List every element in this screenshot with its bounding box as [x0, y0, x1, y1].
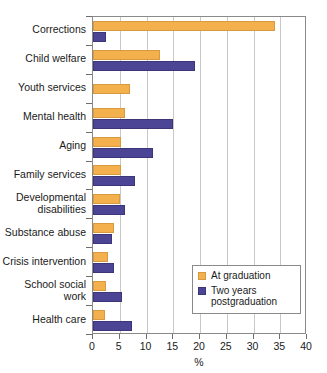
bar	[93, 119, 173, 129]
legend-swatch-two-years	[198, 287, 206, 295]
bar	[93, 165, 121, 175]
x-axis-tick	[226, 334, 227, 339]
x-axis-tick-label: 0	[77, 340, 107, 352]
y-axis-tick	[86, 161, 92, 162]
x-axis-tick	[119, 334, 120, 339]
bar	[93, 310, 105, 320]
y-axis-label: Youth services	[0, 82, 86, 94]
bar	[93, 205, 125, 215]
x-axis-tick	[199, 334, 200, 339]
bar-group	[93, 190, 305, 219]
legend-item: Two years postgraduation	[198, 285, 295, 308]
bar	[93, 148, 153, 158]
y-axis-tick	[86, 218, 92, 219]
bar	[93, 21, 275, 31]
y-axis-label: Health care	[0, 314, 86, 326]
bar	[93, 321, 132, 331]
x-axis-tick-label: 40	[291, 340, 321, 352]
bar-group	[93, 162, 305, 191]
bar	[93, 234, 112, 244]
y-axis-label: Substance abuse	[0, 227, 86, 239]
bar	[93, 84, 130, 94]
x-axis-title: %	[92, 356, 306, 368]
bar	[93, 223, 114, 233]
bar-group	[93, 133, 305, 162]
bar-group	[93, 104, 305, 133]
y-axis-label: Family services	[0, 169, 86, 181]
y-axis-tick	[86, 16, 92, 17]
y-axis-tick	[86, 74, 92, 75]
y-axis-label: Aging	[0, 140, 86, 152]
x-axis-tick	[172, 334, 173, 339]
bar-chart: CorrectionsChild welfareYouth servicesMe…	[0, 0, 327, 373]
x-axis-tick	[146, 334, 147, 339]
y-axis-label: Child welfare	[0, 53, 86, 65]
bar-group	[93, 75, 305, 104]
legend-item: At graduation	[198, 270, 295, 282]
x-axis-tick-label: 30	[238, 340, 268, 352]
bar	[93, 194, 120, 204]
x-axis-tick-label: 20	[184, 340, 214, 352]
y-axis-tick	[86, 103, 92, 104]
y-axis-label: Developmental disabilities	[0, 192, 86, 215]
bar	[93, 137, 121, 147]
bar-group	[93, 46, 305, 75]
bar	[93, 263, 114, 273]
legend-label: Two years postgraduation	[211, 285, 295, 308]
x-axis-tick	[92, 334, 93, 339]
y-axis-tick	[86, 276, 92, 277]
y-axis-tick	[86, 305, 92, 306]
bar	[93, 252, 108, 262]
x-axis-tick-label: 25	[211, 340, 241, 352]
x-axis-tick	[306, 334, 307, 339]
bar	[93, 32, 106, 42]
y-axis-label: Mental health	[0, 111, 86, 123]
y-axis-label: Corrections	[0, 24, 86, 36]
x-axis-tick-label: 15	[157, 340, 187, 352]
y-axis-tick	[86, 45, 92, 46]
x-axis-tick	[253, 334, 254, 339]
y-axis-tick	[86, 247, 92, 248]
bar	[93, 176, 135, 186]
legend-swatch-at-graduation	[198, 272, 206, 280]
y-axis-label: Crisis intervention	[0, 256, 86, 268]
x-axis-tick-label: 10	[131, 340, 161, 352]
legend-label: At graduation	[211, 270, 271, 282]
legend: At graduation Two years postgraduation	[192, 265, 301, 314]
y-axis-tick	[86, 189, 92, 190]
y-axis-label: School social work	[0, 279, 86, 302]
bar	[93, 50, 160, 60]
bar	[93, 281, 106, 291]
bar	[93, 108, 125, 118]
y-axis-tick	[86, 132, 92, 133]
bar-group	[93, 17, 305, 46]
x-axis-tick	[279, 334, 280, 339]
bar	[93, 61, 195, 71]
bar-group	[93, 219, 305, 248]
x-axis-tick-label: 5	[104, 340, 134, 352]
x-axis-tick-label: 35	[264, 340, 294, 352]
bar	[93, 292, 122, 302]
